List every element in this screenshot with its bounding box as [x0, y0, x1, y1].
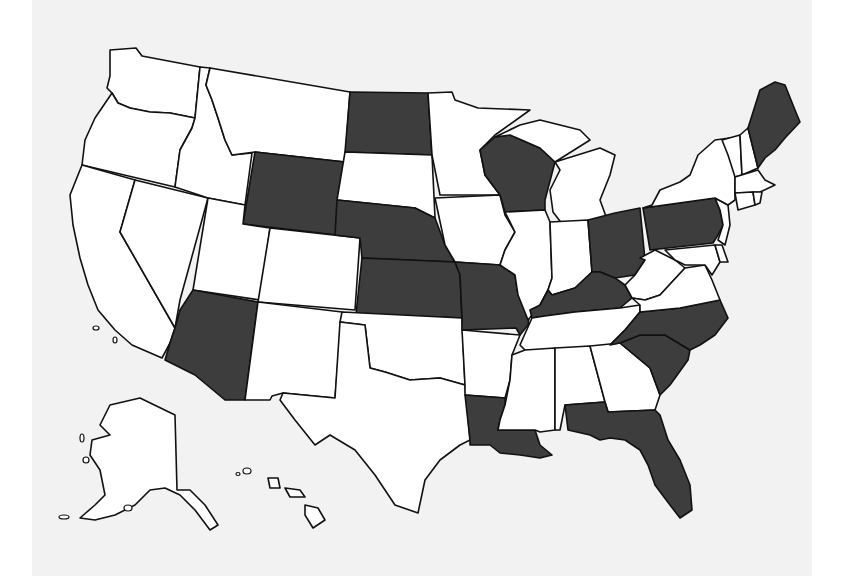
- state-nm: [245, 302, 342, 400]
- state-fl: [565, 402, 692, 518]
- island-shape: [236, 473, 240, 476]
- state-me: [748, 82, 800, 168]
- island-shape: [243, 468, 251, 474]
- state-co: [258, 228, 360, 310]
- states-layer: [70, 48, 800, 530]
- island-shape: [80, 434, 84, 442]
- us-state-map: [0, 0, 850, 576]
- state-ak: [80, 398, 218, 530]
- island-shape: [59, 515, 69, 519]
- state-nd: [345, 92, 432, 155]
- island-shape: [83, 457, 89, 463]
- island-shape: [113, 337, 117, 343]
- state-ks: [356, 258, 462, 318]
- island-shape: [124, 505, 132, 511]
- state-wy: [243, 152, 345, 235]
- state-ct: [735, 192, 755, 210]
- state-hi: [268, 478, 325, 528]
- state-ri: [753, 192, 762, 205]
- state-oh: [588, 208, 645, 278]
- state-ny: [643, 138, 735, 208]
- island-shape: [93, 326, 99, 330]
